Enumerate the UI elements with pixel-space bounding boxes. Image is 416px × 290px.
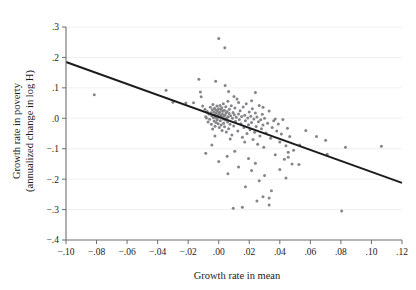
x-tick-label: .04	[274, 247, 286, 257]
data-point	[262, 106, 265, 109]
data-point	[228, 108, 231, 111]
data-point	[248, 110, 251, 113]
data-point	[217, 160, 220, 163]
y-tick-label: .0	[52, 114, 59, 124]
data-point	[229, 123, 232, 126]
data-point	[207, 120, 210, 123]
data-point	[269, 137, 272, 140]
data-point	[223, 109, 226, 112]
data-point	[253, 131, 256, 134]
data-point	[280, 133, 283, 136]
data-point	[220, 106, 223, 109]
data-point	[224, 105, 227, 108]
data-point	[210, 144, 213, 147]
data-point	[165, 89, 168, 92]
data-point	[240, 115, 243, 118]
x-tick-label: .02	[243, 247, 255, 257]
data-point	[247, 123, 250, 126]
data-point	[233, 150, 236, 153]
x-tick-label: .06	[304, 247, 316, 257]
data-point	[226, 155, 229, 158]
data-point	[250, 121, 253, 124]
y-axis-group: .3.2.1.0−.1−.2−.3−.4	[47, 22, 66, 245]
data-point	[236, 130, 239, 133]
data-point	[221, 129, 224, 132]
data-point	[230, 134, 233, 137]
data-point	[297, 163, 300, 166]
data-point	[220, 123, 223, 126]
x-axis-group: −.10−.08−.06−.04−.02.00.02.04.06.08.10.1…	[57, 240, 408, 257]
x-tick-label: −.08	[88, 247, 105, 257]
data-point	[232, 207, 235, 210]
data-point	[214, 125, 217, 128]
x-tick-label: −.02	[180, 247, 197, 257]
data-point	[243, 141, 246, 144]
data-point	[237, 101, 240, 104]
data-point	[192, 101, 195, 104]
data-point	[278, 141, 281, 144]
data-point	[237, 113, 240, 116]
data-point	[241, 206, 244, 209]
gridlines-group	[66, 27, 402, 210]
data-point	[233, 95, 236, 98]
data-point	[243, 114, 246, 117]
x-tick-label: −.06	[118, 247, 135, 257]
data-point	[250, 99, 253, 102]
data-point	[251, 107, 254, 110]
data-point	[260, 127, 263, 130]
data-point	[256, 143, 259, 146]
data-point	[286, 127, 289, 130]
data-point	[259, 118, 262, 121]
data-point	[231, 117, 234, 120]
data-point	[199, 91, 202, 94]
data-point	[218, 126, 221, 129]
data-point	[268, 109, 271, 112]
data-point	[238, 118, 241, 121]
data-point	[244, 119, 247, 122]
data-point	[246, 116, 249, 119]
data-point	[223, 125, 226, 128]
data-point	[258, 179, 261, 182]
data-point	[274, 117, 277, 120]
data-point	[324, 139, 327, 142]
data-point	[255, 116, 258, 119]
data-point	[208, 118, 211, 121]
data-point	[344, 146, 347, 149]
y-axis-title-line1: Growth rate in poverty	[11, 82, 22, 179]
data-point	[255, 125, 258, 128]
x-tick-label: .12	[396, 247, 408, 257]
data-point	[233, 113, 236, 116]
data-point	[245, 102, 248, 105]
x-tick-label: .10	[366, 247, 378, 257]
data-point	[261, 113, 264, 116]
data-point	[239, 109, 242, 112]
scatter-plot-figure: .3.2.1.0−.1−.2−.3−.4 −.10−.08−.06−.04−.0…	[0, 0, 416, 290]
data-point	[315, 135, 318, 138]
y-tick-label: −.2	[47, 175, 60, 185]
data-point	[225, 130, 228, 133]
data-point	[214, 80, 217, 83]
data-point	[247, 157, 250, 160]
data-point	[201, 105, 204, 108]
data-point	[205, 116, 208, 119]
x-axis-title: Growth rate in mean	[194, 270, 281, 281]
data-point	[226, 172, 229, 175]
data-point	[262, 146, 265, 149]
data-point	[213, 134, 216, 137]
y-tick-label: −.3	[47, 205, 60, 215]
y-tick-label: .1	[52, 83, 59, 93]
data-point	[255, 200, 258, 203]
data-point	[266, 122, 269, 125]
data-point	[277, 123, 280, 126]
regression-line	[66, 62, 402, 183]
data-points-group	[93, 37, 383, 213]
data-point	[224, 84, 227, 87]
data-point	[380, 145, 383, 148]
data-point	[263, 174, 266, 177]
data-point	[283, 158, 286, 161]
data-point	[258, 104, 261, 107]
data-point	[252, 138, 255, 141]
data-point	[237, 165, 240, 168]
data-point	[268, 204, 271, 207]
data-point	[258, 134, 261, 137]
